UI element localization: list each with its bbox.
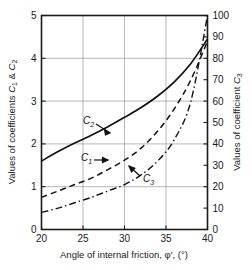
left-tick-label: 5 [31,10,37,21]
x-axis-title: Angle of internal friction, φ', (°) [60,249,188,260]
left-tick-label: 3 [31,96,37,107]
right-tick-label: 90 [213,31,225,42]
right-tick-label: 60 [213,96,225,107]
left-tick-label: 1 [31,181,37,192]
right-tick-label: 20 [213,181,225,192]
right-tick-label: 80 [213,53,225,64]
right-tick-label: 50 [213,117,225,128]
left-tick-label: 4 [31,53,37,64]
chart-figure: 2025303540 012345 0102030405060708090100… [0,0,252,270]
x-tick-label: 25 [77,233,89,244]
right-tick-label: 100 [213,10,230,21]
right-tick-label: 30 [213,160,225,171]
left-tick-label: 2 [31,138,37,149]
right-axis-title: Values of coefficient C3 [231,73,243,171]
x-tick-label: 20 [36,233,48,244]
left-tick-label: 0 [31,224,37,235]
x-tick-label: 35 [160,233,172,244]
right-tick-label: 40 [213,138,225,149]
x-tick-label: 30 [119,233,131,244]
left-axis-title: Values of coefficients C1 & C2 [6,60,18,185]
right-tick-label: 10 [213,203,225,214]
coefficients-vs-friction-angle-chart: 2025303540 012345 0102030405060708090100… [0,0,252,270]
right-tick-label: 0 [213,224,219,235]
right-tick-label: 70 [213,74,225,85]
